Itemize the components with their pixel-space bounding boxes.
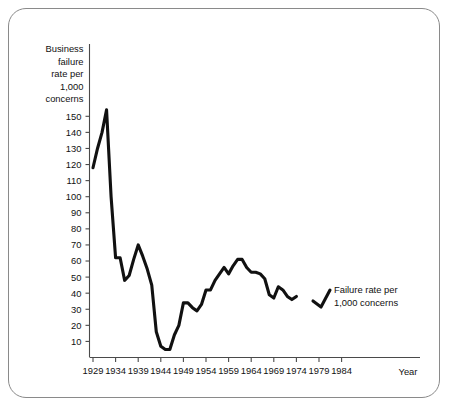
annotation-pointer-icon xyxy=(313,290,330,307)
y-axis-title-line: rate per xyxy=(51,68,83,79)
x-tick-label: 1974 xyxy=(286,365,307,376)
x-tick-label: 1944 xyxy=(150,365,171,376)
x-tick-label: 1949 xyxy=(173,365,194,376)
business-failure-rate-line-chart: 102030405060708090100110120130140150 192… xyxy=(0,0,456,415)
x-tick-label: 1954 xyxy=(196,365,217,376)
y-axis-title-line: 1,000 xyxy=(60,81,83,92)
y-tick-label: 120 xyxy=(66,159,82,170)
annotation-text-line: 1,000 concerns xyxy=(334,297,398,308)
y-axis-tick-labels: 102030405060708090100110120130140150 xyxy=(66,111,82,347)
chart-canvas: 102030405060708090100110120130140150 192… xyxy=(0,0,456,415)
y-tick-label: 90 xyxy=(71,207,81,218)
y-tick-label: 40 xyxy=(71,288,81,299)
y-axis-ticks xyxy=(86,116,90,341)
y-axis-title: Businessfailurerate per1,000concerns xyxy=(45,43,83,104)
data-series-failure-rate xyxy=(93,110,296,350)
y-axis-title-line: failure xyxy=(58,56,84,67)
x-tick-label: 1939 xyxy=(128,365,149,376)
x-tick-label: 1979 xyxy=(309,365,330,376)
y-axis-title-line: Business xyxy=(45,43,83,54)
y-tick-label: 100 xyxy=(66,191,82,202)
y-tick-label: 30 xyxy=(71,304,81,315)
y-tick-label: 10 xyxy=(71,336,81,347)
y-tick-label: 80 xyxy=(71,223,81,234)
x-tick-label: 1984 xyxy=(331,365,352,376)
x-tick-label: 1959 xyxy=(218,365,239,376)
x-tick-label: 1969 xyxy=(263,365,284,376)
x-tick-label: 1934 xyxy=(105,365,126,376)
y-tick-label: 130 xyxy=(66,143,82,154)
x-tick-label: 1964 xyxy=(241,365,262,376)
x-axis-title: Year xyxy=(399,366,418,377)
x-axis-ticks xyxy=(93,358,342,363)
y-axis-title-line: concerns xyxy=(45,93,83,104)
x-axis: 1929193419391944194919541959196419691974… xyxy=(83,358,420,376)
y-tick-label: 60 xyxy=(71,255,81,266)
y-tick-label: 50 xyxy=(71,272,81,283)
x-axis-tick-labels: 1929193419391944194919541959196419691974… xyxy=(83,365,352,376)
annotation-text-line: Failure rate per xyxy=(334,284,398,295)
y-tick-label: 20 xyxy=(71,320,81,331)
y-tick-label: 70 xyxy=(71,239,81,250)
y-tick-label: 150 xyxy=(66,111,82,122)
y-tick-label: 110 xyxy=(67,175,82,186)
y-tick-label: 140 xyxy=(66,127,82,138)
x-tick-label: 1929 xyxy=(83,365,104,376)
annotation-label: Failure rate per1,000 concerns xyxy=(334,284,398,308)
